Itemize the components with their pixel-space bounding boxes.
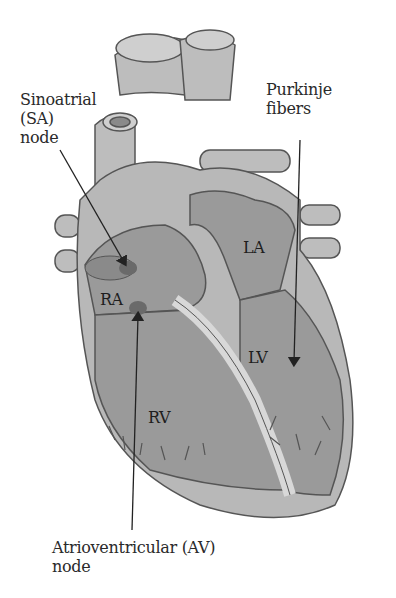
chamber-la-label: LA (243, 238, 264, 257)
purkinje-label: Purkinje fibers (266, 80, 332, 118)
sa-node-label: Sinoatrial (SA) node (20, 90, 96, 147)
av-node (129, 301, 147, 315)
chamber-ra-label: RA (100, 290, 123, 309)
chamber-rv-label: RV (148, 408, 170, 427)
chamber-lv-label: LV (248, 348, 267, 367)
av-node-label: Atrioventricular (AV) node (52, 538, 215, 576)
